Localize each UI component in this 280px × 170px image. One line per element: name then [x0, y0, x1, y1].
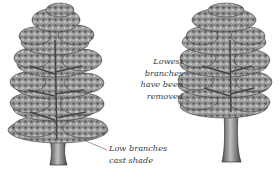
annotation-line: Lowest	[141, 56, 183, 68]
left-trunk	[50, 140, 67, 165]
right-tree	[178, 3, 272, 162]
annotation-low-branches-cast-shade: Low branches cast shade	[109, 143, 167, 166]
annotation-line: cast shade	[109, 155, 167, 167]
annotation-line: have been	[141, 79, 183, 91]
left-tree	[8, 3, 108, 165]
left-canopy	[8, 3, 108, 143]
tree-pruning-diagram: Lowest branches have been removed Low br…	[0, 0, 280, 170]
leader-line-shade	[86, 141, 107, 150]
right-trunk	[222, 112, 241, 162]
annotation-line: Low branches	[109, 143, 167, 155]
right-canopy	[178, 3, 272, 118]
annotation-lowest-branches-removed: Lowest branches have been removed	[141, 56, 183, 102]
annotation-line: removed	[141, 91, 183, 103]
annotation-line: branches	[141, 68, 183, 80]
